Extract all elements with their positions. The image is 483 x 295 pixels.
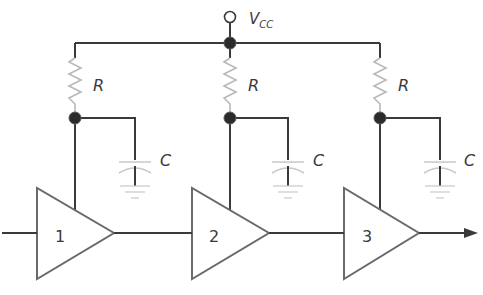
supply-node	[224, 37, 236, 49]
stage-2: R C 2	[192, 58, 325, 279]
amplifier-1-label: 1	[55, 227, 65, 246]
amplifier-3	[344, 188, 419, 279]
node-2	[224, 112, 236, 124]
resistor-1-label: R	[93, 76, 104, 95]
resistor-3	[374, 58, 386, 112]
node-3	[374, 112, 386, 124]
resistor-2-label: R	[248, 76, 259, 95]
stage-1: R C 1	[37, 58, 172, 279]
amplifier-3-label: 3	[362, 227, 372, 246]
capacitor-2-label: C	[313, 151, 325, 170]
vcc-label: VCC	[249, 10, 273, 30]
amplifier-2-label: 2	[209, 227, 219, 246]
resistor-1	[69, 58, 81, 112]
resistor-2	[224, 58, 236, 112]
capacitor-1-label: C	[160, 151, 172, 170]
node-1	[69, 112, 81, 124]
stage-3: R C 3	[344, 58, 476, 279]
output-arrow-icon	[464, 228, 478, 238]
capacitor-3-label: C	[464, 151, 476, 170]
circuit-diagram: VCC R C 1 R C 2	[0, 0, 483, 295]
resistor-3-label: R	[398, 76, 409, 95]
